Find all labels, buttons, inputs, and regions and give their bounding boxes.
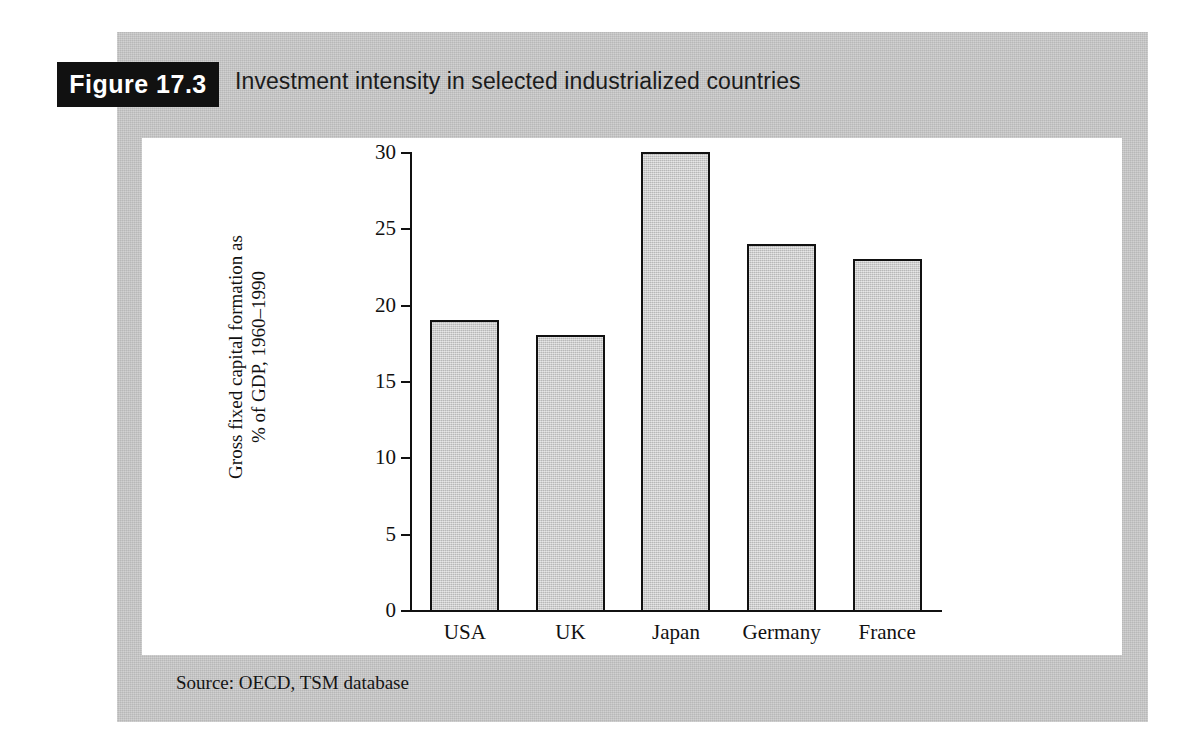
x-axis-category-label: USA (444, 620, 486, 645)
y-axis-tick-mark (401, 534, 410, 536)
chart-canvas: Gross fixed capital formation as % of GD… (142, 138, 1122, 655)
bar-uk (536, 335, 605, 610)
y-axis-tick-label: 15 (375, 371, 396, 392)
figure-screenshot: Figure 17.3 Investment intensity in sele… (0, 0, 1198, 755)
y-axis-tick-mark (401, 152, 410, 154)
y-axis-tick-label: 30 (375, 142, 396, 163)
x-axis-category-label: Japan (652, 620, 700, 645)
y-axis-title: Gross fixed capital formation as % of GD… (224, 192, 270, 522)
y-axis-tick-label: 5 (386, 523, 397, 544)
bar-group: France (834, 152, 940, 610)
bar-series: USAUKJapanGermanyFrance (412, 152, 940, 610)
bar-group: UK (518, 152, 624, 610)
bar-germany (747, 244, 816, 610)
bar-group: USA (412, 152, 518, 610)
figure-number-label: Figure 17.3 (69, 70, 207, 99)
y-axis-tick-mark (401, 228, 410, 230)
bar-france (853, 259, 922, 610)
figure-source: Source: OECD, TSM database (176, 672, 409, 694)
y-axis-tick-label: 25 (375, 218, 396, 239)
y-axis-title-line-1: Gross fixed capital formation as (224, 192, 247, 522)
bar-group: Japan (623, 152, 729, 610)
bar-japan (641, 152, 710, 610)
x-axis-line (410, 610, 942, 612)
x-axis-category-label: Germany (743, 620, 821, 645)
bar-usa (430, 320, 499, 610)
y-axis-tick-label: 0 (386, 600, 397, 621)
x-axis-category-label: France (859, 620, 916, 645)
y-axis-tick-label: 20 (375, 294, 396, 315)
y-axis-tick-mark (401, 610, 410, 612)
x-axis-category-label: UK (555, 620, 585, 645)
bar-group: Germany (729, 152, 835, 610)
y-axis-tick-label: 10 (375, 447, 396, 468)
y-axis-tick-mark (401, 305, 410, 307)
plot-area: 051015202530 USAUKJapanGermanyFrance (410, 152, 940, 612)
bar-chart: Gross fixed capital formation as % of GD… (142, 138, 1122, 655)
figure-number-badge: Figure 17.3 (57, 62, 219, 107)
y-axis-tick-mark (401, 457, 410, 459)
figure-caption: Investment intensity in selected industr… (235, 68, 801, 95)
y-axis-tick-mark (401, 381, 410, 383)
y-axis-title-line-2: % of GDP, 1960–1990 (247, 192, 270, 522)
